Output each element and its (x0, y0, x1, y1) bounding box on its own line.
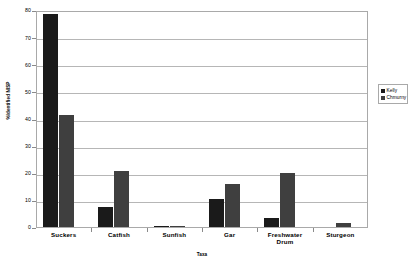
x-axis-title: Taxa (36, 252, 368, 257)
x-tick-label: Sunfish (147, 231, 202, 238)
legend-swatch-icon (381, 89, 385, 93)
legend-label: Kelly (387, 88, 398, 93)
x-tick-mark (91, 228, 92, 232)
x-tick-label: Suckers (36, 231, 91, 238)
bar-group (203, 12, 258, 227)
y-tick-label: 60 (25, 63, 31, 68)
bar-chmurny-catfish (114, 171, 129, 227)
bar-kelly-sunfish (154, 226, 169, 227)
x-tick-mark (147, 228, 148, 232)
chart-legend: KellyChmurny (378, 84, 408, 104)
x-tick-label: Catfish (91, 231, 146, 238)
y-axis: 01020304050607080 (0, 0, 36, 265)
legend-label: Chmurny (387, 95, 407, 100)
bar-chmurny-gar (225, 184, 240, 227)
bar-group (258, 12, 313, 227)
plot-area (36, 11, 368, 228)
legend-swatch-icon (381, 96, 385, 100)
bar-kelly-gar (209, 199, 224, 227)
legend-entry-kelly: Kelly (381, 87, 406, 94)
y-tick-label: 0 (28, 225, 31, 230)
x-tick-mark (202, 228, 203, 232)
x-tick-label: Sturgeon (313, 231, 368, 238)
bar-chmurny-sturgeon (336, 223, 351, 227)
y-tick-label: 10 (25, 198, 31, 203)
bar-kelly-suckers (43, 14, 58, 227)
bar-group (92, 12, 147, 227)
bar-group (148, 12, 203, 227)
x-tick-mark (257, 228, 258, 232)
bar-chmurny-freshwater-drum (280, 173, 295, 227)
bar-chmurny-sunfish (170, 226, 185, 227)
bar-group (314, 12, 369, 227)
x-tick-mark (313, 228, 314, 232)
x-axis: SuckersCatfishSunfishGarFreshwater DrumS… (36, 231, 368, 253)
y-tick-mark (32, 228, 36, 229)
bar-kelly-catfish (98, 207, 113, 227)
bar-chart: %Identified NISP 01020304050607080 Sucke… (0, 0, 418, 265)
y-tick-label: 50 (25, 90, 31, 95)
x-tick-label: Freshwater Drum (257, 231, 312, 246)
y-tick-label: 70 (25, 36, 31, 41)
bar-chmurny-suckers (59, 115, 74, 227)
y-tick-label: 40 (25, 117, 31, 122)
x-tick-label: Gar (202, 231, 257, 238)
y-tick-label: 30 (25, 144, 31, 149)
y-tick-label: 20 (25, 171, 31, 176)
bar-group (37, 12, 92, 227)
legend-entry-chmurny: Chmurny (381, 94, 406, 101)
y-tick-label: 80 (25, 8, 31, 13)
bar-kelly-freshwater-drum (264, 218, 279, 227)
